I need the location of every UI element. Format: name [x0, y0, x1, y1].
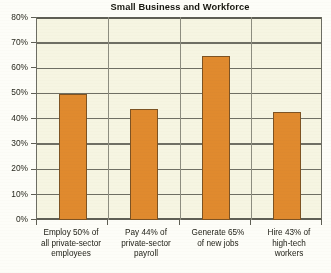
x-axis-label-line: high-tech: [250, 239, 328, 250]
x-axis-label-line: all private-sector: [32, 239, 110, 250]
category-separator: [108, 17, 109, 220]
bar-employ-50-percent: [59, 94, 87, 220]
category-separator: [251, 17, 252, 220]
chart-title: Small Business and Workforce: [36, 2, 324, 13]
y-axis-tick-label-0: 0%: [0, 215, 28, 224]
x-axis-label-line: private-sector: [107, 239, 185, 250]
y-axis-tick-label-40: 40%: [0, 114, 28, 123]
x-axis-tick-mark: [250, 219, 251, 225]
bar-chart: Small Business and Workforce 80% 70% 60%…: [0, 0, 331, 273]
x-axis-tick-mark: [107, 219, 108, 225]
x-axis-label-line: workers: [250, 249, 328, 260]
x-axis-label-pay: Pay 44% of private-sector payroll: [107, 228, 185, 260]
x-axis-label-line: of new jobs: [179, 239, 257, 250]
x-axis-tick-mark: [321, 219, 322, 225]
x-axis-tick-mark: [179, 219, 180, 225]
x-axis-label-hire: Hire 43% of high-tech workers: [250, 228, 328, 260]
x-axis-label-line: Generate 65%: [179, 228, 257, 239]
plot-area: [36, 17, 322, 220]
y-axis-tick-label-70: 70%: [0, 38, 28, 47]
x-axis-label-line: Hire 43% of: [250, 228, 328, 239]
x-axis-label-line: payroll: [107, 249, 185, 260]
bar-hire-43-percent: [273, 112, 301, 220]
y-axis-tick-label-80: 80%: [0, 13, 28, 22]
x-axis-label-line: employees: [32, 249, 110, 260]
bar-pay-44-percent: [130, 109, 158, 220]
x-axis-tick-mark: [36, 219, 37, 225]
y-axis-tick-label-60: 60%: [0, 63, 28, 72]
y-axis-tick-label-30: 30%: [0, 139, 28, 148]
x-axis-label-generate: Generate 65% of new jobs: [179, 228, 257, 249]
x-axis-label-line: Employ 50% of: [32, 228, 110, 239]
category-separator: [180, 17, 181, 220]
y-axis-tick-label-50: 50%: [0, 88, 28, 97]
y-axis-tick-label-10: 10%: [0, 190, 28, 199]
x-axis-label-employ: Employ 50% of all private-sector employe…: [32, 228, 110, 260]
y-axis-tick-label-20: 20%: [0, 164, 28, 173]
bar-generate-65-percent: [202, 56, 230, 220]
x-axis-label-line: Pay 44% of: [107, 228, 185, 239]
